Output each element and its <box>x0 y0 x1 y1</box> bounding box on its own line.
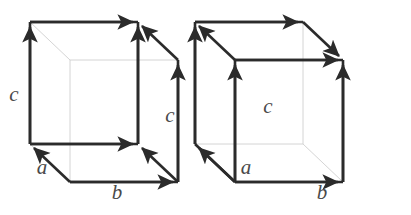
hidden-edge-bottom-right-diagonal <box>303 144 343 182</box>
vector-arrow-bottom-diagonal <box>142 148 178 182</box>
left-unit-cell: c c a b <box>9 22 178 204</box>
right-unit-cell: c a b <box>195 22 343 204</box>
figure-root: c c a b <box>0 0 411 215</box>
vector-label-b-left-cube: b <box>112 180 123 204</box>
vector-label-b-right-cube: b <box>317 180 328 204</box>
cube-diagram-canvas: c c a b <box>0 0 411 215</box>
left-hidden-edges <box>30 22 178 182</box>
left-solid-edges <box>30 22 178 182</box>
hidden-edge-top-left-diagonal <box>30 22 70 60</box>
vector-arrow-top-diagonal-right <box>303 22 339 56</box>
vector-label-c-right-cube: c <box>263 94 273 118</box>
vector-label-c-left: c <box>9 82 19 106</box>
vector-label-a-left-cube: a <box>37 155 48 179</box>
vector-label-c-right: c <box>165 103 175 127</box>
left-vector-arrows <box>30 22 178 182</box>
vector-arrow-a <box>199 148 235 182</box>
vector-label-a-right-cube: a <box>241 155 252 179</box>
vector-arrow-top-diagonal-left <box>199 26 235 60</box>
vector-arrow-top-diagonal <box>142 26 178 60</box>
